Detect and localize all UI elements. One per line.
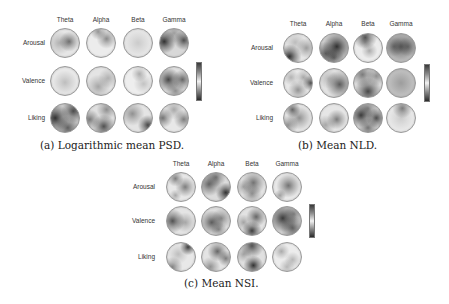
column-label-gamma: Gamma xyxy=(384,20,418,27)
row-label-arousal: Arousal xyxy=(229,44,273,51)
topoplot-liking-alpha xyxy=(86,103,116,133)
topoplot-valence-beta xyxy=(237,206,267,236)
topoplot-arousal-beta xyxy=(123,28,153,58)
column-label-gamma: Gamma xyxy=(157,16,191,23)
topoplot-valence-alpha xyxy=(86,66,116,96)
column-label-theta: Theta xyxy=(48,16,82,23)
topoplot-arousal-gamma xyxy=(159,28,189,58)
topoplot-liking-beta xyxy=(237,242,267,272)
topoplot-liking-alpha xyxy=(201,242,231,272)
row-label-liking: Liking xyxy=(111,253,155,260)
caption-b: (b) Mean NLD. xyxy=(298,139,377,151)
row-label-liking: Liking xyxy=(1,114,45,121)
topoplot-liking-alpha xyxy=(319,103,349,133)
row-label-arousal: Arousal xyxy=(1,39,45,46)
topoplot-arousal-gamma xyxy=(272,172,302,202)
topoplot-liking-gamma xyxy=(386,103,416,133)
topoplot-liking-gamma xyxy=(272,242,302,272)
column-label-theta: Theta xyxy=(164,160,198,167)
topoplot-valence-theta xyxy=(50,66,80,96)
topoplot-valence-alpha xyxy=(201,206,231,236)
column-label-alpha: Alpha xyxy=(317,20,351,27)
topoplot-arousal-gamma xyxy=(386,33,416,63)
row-label-valence: Valence xyxy=(1,77,45,84)
topoplot-valence-gamma xyxy=(159,66,189,96)
topoplot-liking-theta xyxy=(166,242,196,272)
column-label-beta: Beta xyxy=(235,160,269,167)
column-label-beta: Beta xyxy=(351,20,385,27)
row-label-valence: Valence xyxy=(111,217,155,224)
topoplot-arousal-alpha xyxy=(201,172,231,202)
topoplot-liking-gamma xyxy=(159,103,189,133)
topoplot-valence-beta xyxy=(353,68,383,98)
topoplot-arousal-theta xyxy=(166,172,196,202)
topoplot-arousal-theta xyxy=(283,33,313,63)
topoplot-arousal-alpha xyxy=(86,28,116,58)
row-label-valence: Valence xyxy=(229,79,273,86)
topoplot-liking-theta xyxy=(283,103,313,133)
topoplot-valence-theta xyxy=(283,68,313,98)
topoplot-valence-theta xyxy=(166,206,196,236)
column-label-beta: Beta xyxy=(121,16,155,23)
topoplot-liking-beta xyxy=(353,103,383,133)
row-label-arousal: Arousal xyxy=(111,183,155,190)
column-label-alpha: Alpha xyxy=(84,16,118,23)
topoplot-liking-beta xyxy=(123,103,153,133)
column-label-theta: Theta xyxy=(281,20,315,27)
topoplot-liking-theta xyxy=(50,103,80,133)
colorbar xyxy=(309,204,315,238)
colorbar xyxy=(424,64,430,102)
topoplot-arousal-theta xyxy=(50,28,80,58)
topoplot-arousal-beta xyxy=(353,33,383,63)
column-label-alpha: Alpha xyxy=(199,160,233,167)
column-label-gamma: Gamma xyxy=(270,160,304,167)
topoplot-valence-gamma xyxy=(272,206,302,236)
topoplot-arousal-beta xyxy=(237,172,267,202)
topoplot-valence-gamma xyxy=(386,68,416,98)
colorbar xyxy=(196,62,202,101)
topoplot-arousal-alpha xyxy=(319,33,349,63)
caption-c: (c) Mean NSI. xyxy=(184,277,259,289)
topoplot-valence-alpha xyxy=(319,68,349,98)
topoplot-valence-beta xyxy=(123,66,153,96)
row-label-liking: Liking xyxy=(229,114,273,121)
caption-a: (a) Logarithmic mean PSD. xyxy=(40,139,184,151)
